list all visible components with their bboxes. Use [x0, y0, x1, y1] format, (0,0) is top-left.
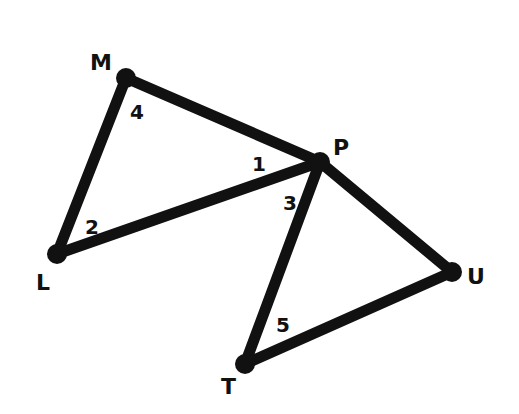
angle-label-4: 4 [130, 100, 144, 124]
vertex-m-dot [116, 68, 136, 88]
angle-label-1: 1 [252, 152, 266, 176]
vertex-label-u: U [467, 264, 485, 289]
vertex-p-dot [310, 152, 330, 172]
vertex-label-t: T [221, 374, 236, 399]
geometry-diagram: M P L U T 4 1 3 2 5 [0, 0, 519, 414]
vertex-label-m: M [90, 50, 112, 75]
segment-mp [126, 78, 320, 162]
vertex-label-l: L [36, 270, 50, 295]
angle-label-5: 5 [276, 313, 290, 337]
vertex-t-dot [235, 354, 255, 374]
angle-label-3: 3 [283, 191, 297, 215]
vertex-l-dot [47, 244, 67, 264]
vertex-u-dot [442, 262, 462, 282]
vertex-label-p: P [333, 135, 349, 160]
segment-lp [57, 162, 320, 254]
segment-pu [320, 162, 452, 272]
angle-label-2: 2 [85, 215, 99, 239]
